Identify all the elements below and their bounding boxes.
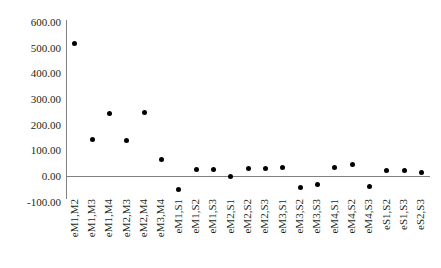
data-point: [194, 167, 199, 172]
x-axis-tick-label: eS1,S3: [398, 199, 409, 230]
data-point: [384, 168, 389, 173]
y-axis-tick-label: -100.00: [27, 196, 61, 207]
x-axis-tick-label: eM1,S3: [207, 199, 218, 234]
x-axis-tick-label: eM4,S3: [363, 199, 374, 234]
y-axis-tick-labels: 600.00500.00400.00300.00200.00100.000.00…: [0, 0, 61, 268]
x-axis-tick-label: eS1,S2: [381, 199, 392, 230]
x-axis-tick-label: eM4,S2: [346, 199, 357, 234]
data-point: [246, 166, 251, 171]
data-point: [298, 185, 303, 190]
x-axis-tick-label: eM2,M4: [138, 199, 149, 237]
data-point: [419, 170, 424, 175]
x-axis-tick-label: eM1,M4: [103, 199, 114, 237]
y-axis-tick-label: 200.00: [31, 119, 61, 130]
data-point: [211, 167, 216, 172]
x-axis-tick-label: eM2,S1: [225, 199, 236, 234]
data-point: [228, 174, 233, 179]
data-point: [159, 157, 164, 162]
data-point: [280, 165, 285, 170]
x-axis-tick-label: eM1,M2: [69, 199, 80, 237]
data-point: [315, 182, 320, 187]
y-axis-tick-label: 300.00: [31, 94, 61, 105]
x-axis-tick-label: eM2,M3: [121, 199, 132, 237]
plot-area: [66, 20, 430, 198]
data-point: [367, 184, 372, 189]
data-point: [176, 187, 181, 192]
y-axis-tick-label: 0.00: [42, 171, 61, 182]
x-axis-tick-label: eM3,M4: [155, 199, 166, 237]
x-axis-tick-label: eM2,S2: [242, 199, 253, 234]
data-point: [350, 162, 355, 167]
data-point: [107, 111, 112, 116]
data-point: [124, 138, 129, 143]
data-point: [332, 165, 337, 170]
scatter-chart-figure: 600.00500.00400.00300.00200.00100.000.00…: [0, 0, 441, 268]
x-axis-tick-label: eS2,S3: [415, 199, 426, 230]
x-axis-tick-label: eM2,S3: [259, 199, 270, 234]
x-axis-tick-label: eM3,S2: [294, 199, 305, 234]
x-axis-tick-label: eM3,S3: [311, 199, 322, 234]
x-axis-tick-label: eM4,S1: [329, 199, 340, 234]
data-point: [90, 137, 95, 142]
data-point: [402, 168, 407, 173]
x-axis-tick-label: eM1,S2: [190, 199, 201, 234]
x-axis-tick-labels: eM1,M2eM1,M3eM1,M4eM2,M3eM2,M4eM3,M4eM1,…: [66, 199, 430, 268]
data-point: [142, 110, 147, 115]
data-point: [72, 41, 77, 46]
data-point: [263, 166, 268, 171]
y-axis-tick-label: 400.00: [31, 68, 61, 79]
y-axis-tick-label: 600.00: [31, 17, 61, 28]
y-axis-tick-label: 100.00: [31, 145, 61, 156]
y-axis-tick-label: 500.00: [31, 42, 61, 53]
x-axis-tick-label: eM1,S1: [173, 199, 184, 234]
x-axis-tick-label: eM1,M3: [86, 199, 97, 237]
x-axis-tick-label: eM3,S1: [277, 199, 288, 234]
